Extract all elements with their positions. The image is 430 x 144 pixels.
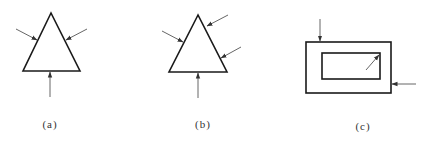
outer-rectangle <box>306 42 391 93</box>
inner-rectangle <box>322 53 380 79</box>
arrow-icon <box>66 29 87 40</box>
panel-a <box>16 13 87 97</box>
arrow-icon <box>16 29 37 40</box>
triangle-b <box>169 15 227 72</box>
triangle-a <box>23 13 80 71</box>
panel-label-a: (a) <box>42 118 57 130</box>
arrow-icon <box>162 31 183 42</box>
panel-c <box>306 19 416 93</box>
arrow-icon <box>366 55 379 70</box>
panel-label-b: (b) <box>195 118 211 130</box>
arrow-icon <box>221 47 241 58</box>
panel-label-c: (c) <box>355 120 370 132</box>
panel-b <box>162 15 241 98</box>
arrow-icon <box>207 15 228 26</box>
